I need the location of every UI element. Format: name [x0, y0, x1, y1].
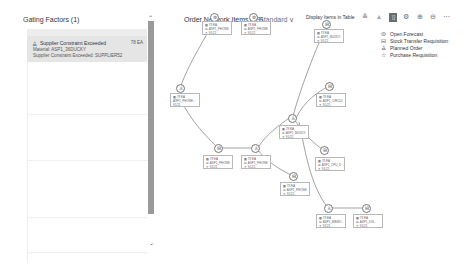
planned-order-icon: ♙ [288, 114, 297, 123]
stock-transfer-icon: ⊟ [214, 144, 223, 153]
stock-transfer-icon: ⊟ [362, 204, 371, 213]
planned-order-icon: ♙ [176, 84, 185, 93]
stock-transfer-icon: ⊟ [322, 20, 331, 29]
network-edges [0, 0, 473, 265]
stock-transfer-icon: ⊟ [289, 172, 298, 181]
planned-order-icon: ♙ [324, 204, 333, 213]
stock-transfer-icon: ⊟ [320, 146, 329, 155]
planned-order-icon: ♙ [251, 144, 260, 153]
stock-transfer-icon: ⊟ [325, 82, 334, 91]
